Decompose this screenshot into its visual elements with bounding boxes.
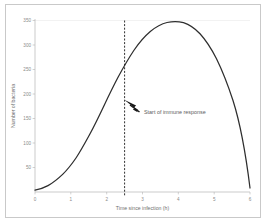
x-tick-label-1: 1 [70,197,73,202]
y-tick-label-250: 250 [23,67,31,72]
y-axis-title: Number of bacteria [10,84,16,128]
y-tick-label-100: 100 [23,141,31,146]
bacteria-curve [35,22,250,191]
y-axis-ticks [33,21,35,168]
x-tick-label-3: 3 [141,197,144,202]
x-tick-label-4: 4 [177,197,180,202]
y-tick-label-350: 350 [23,18,31,23]
y-tick-label-300: 300 [23,43,31,48]
x-tick-label-6: 6 [249,197,252,202]
y-tick-label-150: 150 [23,116,31,121]
y-tick-label-50: 50 [26,165,32,170]
chart-plot: 350 300 250 200 150 100 50 0 1 2 3 4 5 6… [0,0,266,223]
x-tick-label-5: 5 [213,197,216,202]
x-axis-title: Time since infection (h) [116,205,170,211]
annotation-arrow-icon [124,100,139,112]
x-tick-label-0: 0 [34,197,37,202]
immune-response-annotation-label: Start of immune response [144,109,206,115]
figure-container: 350 300 250 200 150 100 50 0 1 2 3 4 5 6… [0,0,266,223]
x-tick-label-2: 2 [105,197,108,202]
y-tick-label-200: 200 [23,92,31,97]
x-axis-ticks [35,192,250,194]
